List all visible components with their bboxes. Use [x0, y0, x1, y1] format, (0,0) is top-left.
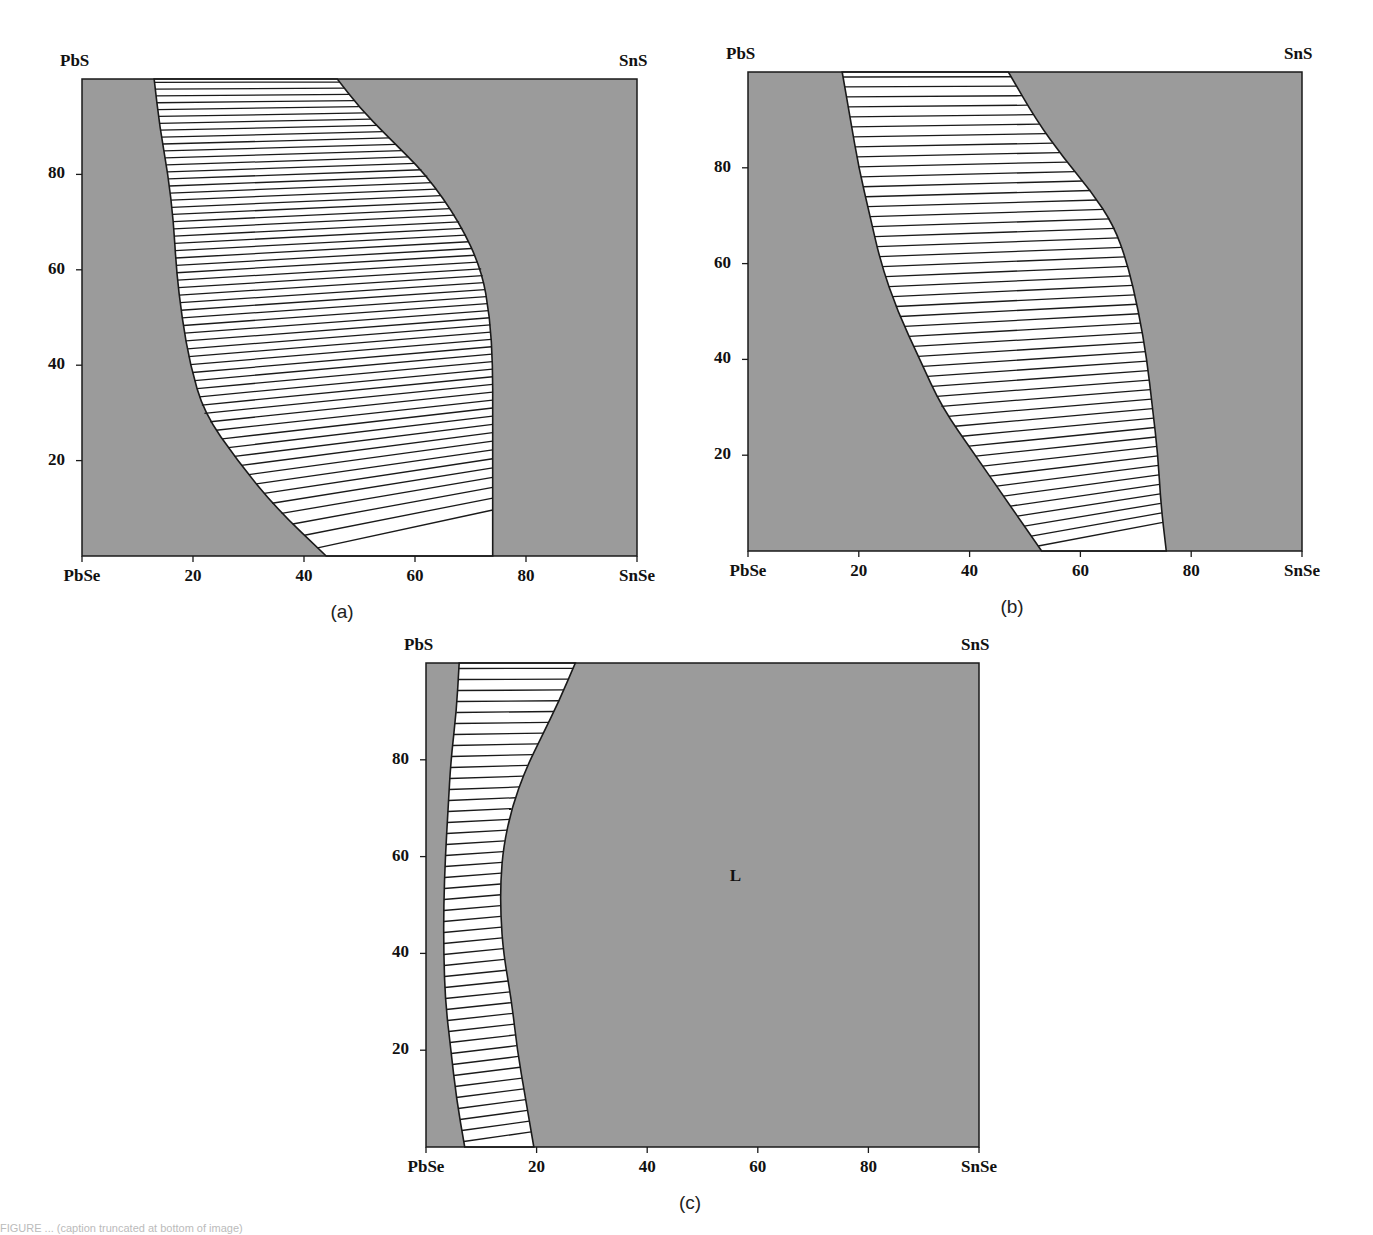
plot-area [0, 0, 1373, 1235]
y-tick-label: 20 [392, 1039, 409, 1059]
figure-caption: FIGURE ... (caption truncated at bottom … [0, 1222, 1373, 1235]
region-label-liquid: L [730, 866, 741, 886]
x-tick-label: SnSe [961, 1157, 997, 1177]
x-tick-label: 80 [860, 1157, 877, 1177]
y-tick-label: 40 [392, 942, 409, 962]
corner-label-top-right: SnS [961, 635, 989, 655]
y-tick-label: 60 [392, 846, 409, 866]
y-tick-label: 80 [392, 749, 409, 769]
x-tick-label: 60 [749, 1157, 766, 1177]
corner-label-top-left: PbS [404, 635, 433, 655]
x-tick-label: 20 [528, 1157, 545, 1177]
x-tick-label: 40 [639, 1157, 656, 1177]
panel-caption: (c) [679, 1192, 701, 1214]
x-tick-label: PbSe [408, 1157, 445, 1177]
